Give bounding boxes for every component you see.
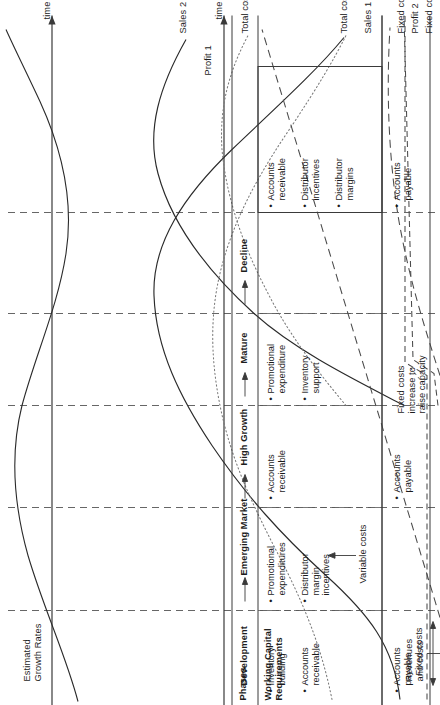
phase-mature: Mature (239, 332, 250, 363)
curve-label-sales-1: Sales 1 (363, 1, 374, 33)
wc-mature-item-2: Inventory support (300, 355, 321, 393)
curve-label-sales-2: Sales 2 (178, 1, 189, 33)
y-axis-label-secondary: Estimated Growth Rates (22, 623, 43, 681)
wc-decline-item-1: Accounts receivable (266, 158, 287, 200)
curve-label-fixed-costs-1: Fixed costs 1 (424, 0, 435, 33)
ap-item-3: Accounts payable (392, 162, 413, 200)
curve-label-profit-2: Profit 2 (410, 3, 421, 33)
curve-label-total-costs-1: Total costs 1 (339, 0, 350, 33)
product-lifecycle-diagram: Revenues and costs Estimated Growth Rate… (0, 0, 440, 705)
annotation-fixed-costs: Fixed costs (414, 627, 425, 675)
curve-label-profit-1: Profit 1 (203, 45, 214, 75)
chart-text-layer: Revenues and costs Estimated Growth Rate… (0, 0, 440, 705)
annotation-variable-costs: Variable costs (358, 524, 369, 583)
wc-high-growth-item-1: Accounts receivable (266, 450, 287, 492)
curve-label-fixed-costs-2: Fixed costs 2 (396, 0, 407, 33)
curve-label-total-costs-2: Total costs 2 (240, 0, 251, 33)
wc-development-item-1: Inventory building (266, 647, 287, 685)
wc-development-item-2: Accounts receivable (300, 643, 321, 685)
wc-decline-item-2: Distributor incentives (300, 158, 321, 200)
phase-decline: Decline (239, 238, 250, 272)
wc-mature-item-1: Promotional expenditure (266, 343, 287, 393)
wc-emerging-item-1: Promotional expenditures (266, 542, 287, 595)
ap-item-2: Accounts payable (392, 454, 413, 492)
annotation-fixed-costs-increase: Fixed costs increase to raise capacity (396, 355, 428, 413)
phase-high-growth: High Growth (239, 408, 250, 465)
x-axis-label-secondary: time (42, 1, 53, 19)
wc-emerging-item-2: Distributor margin incentives (300, 553, 332, 595)
x-axis-label-main: time (214, 1, 225, 19)
phase-development: Development (239, 626, 250, 685)
wc-decline-item-3: Distributor margins (334, 158, 355, 200)
ap-item-1: Accounts payable (392, 647, 413, 685)
phase-emerging-market: Emerging Market (239, 498, 250, 575)
